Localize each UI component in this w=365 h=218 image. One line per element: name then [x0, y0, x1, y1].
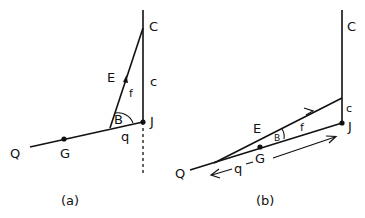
panel-a-label-c: c [150, 74, 157, 89]
panel-b-line-f [190, 123, 342, 170]
panel-a-point-j [140, 119, 145, 124]
panel-b-label-c: c [346, 102, 352, 115]
panel-a-label-E: E [107, 70, 115, 85]
panel-a-label-C: C [149, 19, 158, 34]
panel-b-dash-q-g [246, 162, 253, 164]
panel-b-label-B: B [274, 133, 280, 143]
panel-b-point-j [339, 120, 344, 125]
panel-a-caption: (a) [61, 193, 79, 208]
panel-b-label-J: J [347, 119, 352, 134]
panel-a-label-G: G [60, 146, 70, 161]
panel-b-label-Q: Q [175, 166, 185, 181]
panel-a-label-J: J [149, 114, 154, 129]
panel-b-label-C: C [347, 19, 356, 34]
panel-b-point-g [257, 144, 262, 149]
panel-b-caption: (b) [256, 193, 274, 208]
panel-a-label-q: q [121, 129, 129, 144]
panel-a: C c E f B J q G Q (a) [10, 10, 158, 208]
panel-b: C c E f B J q G Q (b) [175, 10, 356, 208]
diagram-canvas: C c E f B J q G Q (a) C c E f B [0, 0, 365, 218]
panel-b-arrow-q-right [273, 137, 335, 158]
panel-a-point-g [61, 136, 66, 141]
panel-b-angle-arc [282, 129, 284, 139]
panel-b-line-e [214, 98, 342, 163]
panel-a-label-Q: Q [10, 146, 20, 161]
panel-b-label-f: f [300, 121, 305, 134]
panel-a-label-f: f [129, 87, 134, 100]
panel-a-label-B: B [114, 112, 123, 127]
panel-b-label-E: E [253, 121, 261, 136]
panel-b-label-q: q [234, 161, 242, 176]
panel-b-label-G: G [255, 151, 265, 166]
